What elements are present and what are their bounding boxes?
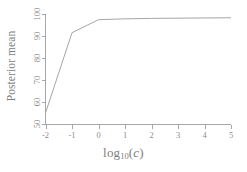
y-tick-label: 60 (32, 98, 42, 107)
y-tick-label: 80 (32, 54, 42, 63)
x-axis-title-subscript: 10 (120, 151, 129, 161)
y-tick-label: 90 (32, 32, 42, 41)
x-axis-ticks (46, 125, 232, 129)
x-tick-label: 5 (229, 130, 233, 140)
y-axis-title: Posterior mean (5, 31, 17, 102)
x-tick-label: 0 (96, 130, 100, 140)
y-axis-title-wrap: Posterior mean (2, 0, 20, 132)
x-axis-title-paren-close: ) (139, 145, 144, 160)
chart-figure: 5060708090100 -2-1012345 Posterior mean … (0, 0, 247, 172)
x-tick-label: 2 (149, 130, 153, 140)
data-series-group (46, 18, 232, 113)
x-tick-label: -2 (42, 130, 49, 140)
x-tick-label: -1 (68, 130, 75, 140)
y-tick-label: 70 (32, 76, 42, 85)
posterior-mean-line (46, 18, 232, 113)
x-tick-label: 3 (176, 130, 180, 140)
y-tick-label: 50 (32, 120, 42, 129)
x-tick-label: 1 (123, 130, 127, 140)
x-tick-label: 4 (202, 130, 207, 140)
x-axis-title: log10(c) (0, 145, 247, 161)
y-axis-tick-labels: 5060708090100 (32, 8, 42, 129)
x-axis-title-base: log (103, 145, 120, 160)
y-axis-ticks (42, 15, 46, 125)
axes-group (46, 14, 232, 125)
x-axis-tick-labels: -2-1012345 (42, 130, 233, 140)
y-tick-label: 100 (32, 8, 42, 21)
